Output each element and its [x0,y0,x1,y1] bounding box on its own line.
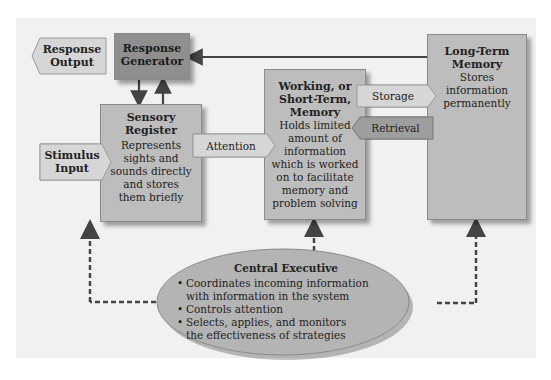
attention-label: Attention [193,134,269,157]
working-desc-1: Holds limited [265,119,365,132]
retrieval-label: Retrieval [358,117,433,139]
working-desc-6: memory and [265,184,365,197]
bullet-2-line1: Controls attention [186,303,396,316]
storage-label: Storage [357,85,429,107]
central-executive-title: Central Executive [176,262,396,275]
bullet-3: Selects, applies, and monitors the effec… [176,316,396,342]
response-generator-line2: Generator [115,55,189,68]
sensory-desc-2: sights and [101,152,201,165]
response-generator-line1: Response [115,42,189,55]
sensory-desc-4: and stores [101,178,201,191]
stimulus-input-line2: Input [55,162,89,175]
sensory-register-box: Sensory Register Represents sights and s… [100,104,202,222]
sensory-desc-1: Represents [101,139,201,152]
central-executive-bullets: Coordinates incoming information with in… [176,277,396,342]
stimulus-input: Stimulus Input [40,144,104,180]
working-memory-box: Working, or Short-Term, Memory Holds lim… [264,69,366,220]
ltm-desc-2: information [428,84,526,97]
sensory-desc-5: them briefly [101,191,201,204]
working-memory-line2: Short-Term, [265,93,365,106]
bullet-3-line2: the effectiveness of strategies [186,329,396,342]
response-generator-box: Response Generator [114,33,190,80]
bullet-1-line1: Coordinates incoming information [186,277,396,290]
sensory-desc-3: sounds directly [101,165,201,178]
ltm-line1: Long-Term [428,45,526,58]
working-desc-3: information [265,145,365,158]
working-desc-7: problem solving [265,197,365,210]
long-term-memory-box: Long-Term Memory Stores information perm… [427,34,527,220]
ltm-desc-3: permanently [428,97,526,110]
stimulus-input-line1: Stimulus [44,149,99,162]
bullet-2: Controls attention [176,303,396,316]
response-output: Response Output [38,38,106,74]
ltm-desc-1: Stores [428,71,526,84]
working-desc-2: amount of [265,132,365,145]
bullet-1: Coordinates incoming information with in… [176,277,396,303]
response-output-line1: Response [43,43,102,56]
working-desc-4: which is worked [265,158,365,171]
working-memory-line1: Working, or [265,80,365,93]
bullet-3-line1: Selects, applies, and monitors [186,316,396,329]
sensory-register-line1: Sensory [101,111,201,124]
bullet-1-line2: with information in the system [186,290,396,303]
sensory-register-line2: Register [101,124,201,137]
response-output-line2: Output [50,56,93,69]
working-desc-5: on to facilitate [265,171,365,184]
ltm-line2: Memory [428,58,526,71]
central-executive: Central Executive Coordinates incoming i… [176,262,396,342]
working-memory-line3: Memory [265,106,365,119]
